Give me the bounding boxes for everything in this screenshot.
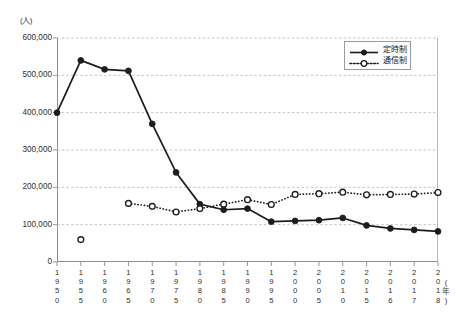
line-chart: (人) 600,000500,000400,000300,000200,0001… bbox=[0, 0, 457, 318]
x-axis-tick-label: 1985 bbox=[217, 268, 231, 305]
x-axis-tick-label: 1970 bbox=[145, 268, 159, 305]
legend-swatch-dotted-open-circle-icon bbox=[349, 55, 379, 66]
x-axis-tick-label: 1990 bbox=[241, 268, 255, 305]
x-axis-tick-label: 1960 bbox=[98, 268, 112, 305]
x-axis-tick-label: 1965 bbox=[121, 268, 135, 305]
x-axis-tick-label: 2017 bbox=[407, 268, 421, 305]
legend-label-series-1: 通信制 bbox=[383, 56, 406, 66]
y-axis-tick-label: 300,000 bbox=[0, 146, 52, 154]
x-axis-tick-label: 2010 bbox=[336, 268, 350, 305]
y-axis-tick-label: 200,000 bbox=[0, 183, 52, 191]
x-axis-tick-label: 1980 bbox=[193, 268, 207, 305]
legend-label-series-0: 定時制 bbox=[383, 45, 406, 55]
x-axis-tick-label: 1950 bbox=[50, 268, 64, 305]
x-axis-tick-labels: 1950195519601965197019751980198519901995… bbox=[0, 268, 457, 318]
legend-item-series-0: 定時制 bbox=[349, 44, 406, 55]
x-axis-tick-label: 1975 bbox=[169, 268, 183, 305]
x-axis-tick-label: 2015 bbox=[360, 268, 374, 305]
legend-swatch-solid-filled-circle-icon bbox=[349, 44, 379, 55]
x-axis-tick-label: 1955 bbox=[74, 268, 88, 305]
y-axis-tick-label: 500,000 bbox=[0, 71, 52, 79]
x-axis-tick-label: 1995 bbox=[264, 268, 278, 305]
y-axis-tick-label: 400,000 bbox=[0, 109, 52, 117]
x-axis-tick-label: 2000 bbox=[288, 268, 302, 305]
x-axis-unit-label: (年) bbox=[440, 278, 452, 305]
y-axis-tick-label: 0 bbox=[0, 258, 52, 266]
x-axis-tick-label: 2005 bbox=[312, 268, 326, 305]
chart-legend: 定時制 通信制 bbox=[344, 41, 411, 70]
y-axis-tick-label: 600,000 bbox=[0, 34, 52, 42]
plot-area bbox=[57, 38, 438, 262]
y-axis-tick-label: 100,000 bbox=[0, 221, 52, 229]
legend-item-series-1: 通信制 bbox=[349, 55, 406, 66]
x-axis-tick-label: 2016 bbox=[383, 268, 397, 305]
